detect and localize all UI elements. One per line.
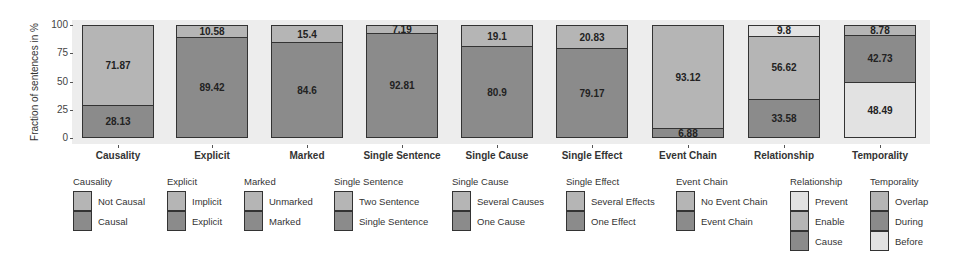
stacked-bar-single-effect: 20.8379.17 bbox=[556, 25, 628, 138]
bar-segment-unmarked: 15.4 bbox=[272, 26, 342, 43]
legend-item-label: One Cause bbox=[477, 216, 525, 227]
bar-segment-marked: 84.6 bbox=[272, 43, 342, 137]
legend-item-label: Several Causes bbox=[477, 196, 544, 207]
legend-swatch-icon bbox=[244, 191, 263, 211]
legend-swatch-icon bbox=[790, 231, 809, 251]
stacked-bar-relationship: 9.856.6233.58 bbox=[748, 25, 820, 138]
legend-swatch-icon bbox=[167, 211, 186, 231]
segment-value-label: 28.13 bbox=[105, 116, 130, 127]
legend-title: Marked bbox=[244, 176, 313, 187]
legend-swatch-icon bbox=[870, 191, 889, 211]
legend-title: Relationship bbox=[790, 176, 848, 187]
legend-item-label: No Event Chain bbox=[701, 196, 768, 207]
y-tick-mark bbox=[70, 138, 73, 139]
bar-segment-single-sentence: 92.81 bbox=[367, 34, 437, 137]
legend-item: Several Causes bbox=[452, 191, 544, 211]
segment-value-label: 20.83 bbox=[579, 32, 604, 43]
legend-item: Event Chain bbox=[676, 211, 768, 231]
bar-segment-before: 48.49 bbox=[845, 83, 915, 137]
legend-item: No Event Chain bbox=[676, 191, 768, 211]
legend-swatch-icon bbox=[870, 211, 889, 231]
segment-value-label: 56.62 bbox=[771, 62, 796, 73]
bar-segment-two-sentence: 7.19 bbox=[367, 26, 437, 34]
bar-segment-during: 42.73 bbox=[845, 36, 915, 83]
legend-temporality: TemporalityOverlapDuringBefore bbox=[870, 176, 928, 251]
x-tick-mark bbox=[688, 145, 689, 148]
stacked-bar-chart: Fraction of sentences in % 0255075100 71… bbox=[0, 0, 966, 266]
bar-segment-one-cause: 80.9 bbox=[462, 47, 532, 137]
legend-marked: MarkedUnmarkedMarked bbox=[244, 176, 313, 231]
legend-swatch-icon bbox=[790, 211, 809, 231]
legend-item-label: Implicit bbox=[192, 196, 222, 207]
stacked-bar-single-sentence: 7.1992.81 bbox=[366, 25, 438, 138]
bar-segment-overlap: 8.78 bbox=[845, 26, 915, 36]
segment-value-label: 33.58 bbox=[771, 113, 796, 124]
legend-swatch-icon bbox=[73, 211, 92, 231]
legend-item: One Effect bbox=[566, 211, 655, 231]
stacked-bar-marked: 15.484.6 bbox=[271, 25, 343, 138]
y-tick-mark bbox=[70, 110, 73, 111]
bar-segment-several-effects: 20.83 bbox=[557, 26, 627, 49]
x-category-label: Single Sentence bbox=[347, 150, 457, 161]
bar-segment-cause: 33.58 bbox=[749, 100, 819, 137]
legend-single-sentence: Single SentenceTwo SentenceSingle Senten… bbox=[334, 176, 428, 231]
legend-explicit: ExplicitImplicitExplicit bbox=[167, 176, 222, 231]
bar-segment-enable: 56.62 bbox=[749, 37, 819, 100]
x-category-label: Relationship bbox=[729, 150, 839, 161]
bar-segment-implicit: 10.58 bbox=[177, 26, 247, 38]
legend-single-effect: Single EffectSeveral EffectsOne Effect bbox=[566, 176, 655, 231]
legend-item-label: Explicit bbox=[192, 216, 222, 227]
segment-value-label: 6.88 bbox=[678, 128, 697, 139]
x-tick-mark bbox=[880, 145, 881, 148]
legend-item-label: Enable bbox=[815, 216, 845, 227]
bar-segment-prevent: 9.8 bbox=[749, 26, 819, 37]
legend-swatch-icon bbox=[334, 211, 353, 231]
y-tick-label: 25 bbox=[44, 104, 68, 115]
legend-item-label: Before bbox=[895, 236, 923, 247]
legend-swatch-icon bbox=[167, 191, 186, 211]
legend-item-label: Marked bbox=[269, 216, 301, 227]
x-tick-mark bbox=[402, 145, 403, 148]
stacked-bar-single-cause: 19.180.9 bbox=[461, 25, 533, 138]
legend-event-chain: Event ChainNo Event ChainEvent Chain bbox=[676, 176, 768, 231]
legend-swatch-icon bbox=[566, 211, 585, 231]
stacked-bar-causality: 71.8728.13 bbox=[82, 25, 154, 138]
legend-item: Explicit bbox=[167, 211, 222, 231]
legend-single-cause: Single CauseSeveral CausesOne Cause bbox=[452, 176, 544, 231]
stacked-bar-temporality: 8.7842.7348.49 bbox=[844, 25, 916, 138]
x-category-label: Single Effect bbox=[537, 150, 647, 161]
y-tick-mark bbox=[70, 53, 73, 54]
bar-segment-causal: 28.13 bbox=[83, 106, 153, 137]
segment-value-label: 8.78 bbox=[870, 25, 889, 36]
legend-swatch-icon bbox=[452, 191, 471, 211]
legend-swatch-icon bbox=[870, 231, 889, 251]
legend-item-label: During bbox=[895, 216, 923, 227]
segment-value-label: 48.49 bbox=[867, 105, 892, 116]
legend-relationship: RelationshipPreventEnableCause bbox=[790, 176, 848, 251]
legend-title: Single Sentence bbox=[334, 176, 428, 187]
legend-item-label: Overlap bbox=[895, 196, 928, 207]
legend-causality: CausalityNot CausalCausal bbox=[73, 176, 145, 231]
segment-value-label: 89.42 bbox=[199, 82, 224, 93]
legend-item-label: Cause bbox=[815, 236, 842, 247]
legend-item-label: Event Chain bbox=[701, 216, 753, 227]
segment-value-label: 80.9 bbox=[487, 87, 506, 98]
x-tick-mark bbox=[212, 145, 213, 148]
legend-swatch-icon bbox=[73, 191, 92, 211]
legend-item: Cause bbox=[790, 231, 848, 251]
x-category-label: Marked bbox=[252, 150, 362, 161]
legend-item: Several Effects bbox=[566, 191, 655, 211]
legend-swatch-icon bbox=[566, 191, 585, 211]
y-tick-label: 100 bbox=[44, 19, 68, 30]
legend-item: During bbox=[870, 211, 928, 231]
segment-value-label: 19.1 bbox=[487, 31, 506, 42]
segment-value-label: 10.58 bbox=[199, 26, 224, 37]
legend-title: Single Cause bbox=[452, 176, 544, 187]
legend-item: Single Sentence bbox=[334, 211, 428, 231]
legend-swatch-icon bbox=[790, 191, 809, 211]
y-tick-label: 0 bbox=[44, 132, 68, 143]
legend-item-label: Not Causal bbox=[98, 196, 145, 207]
segment-value-label: 71.87 bbox=[105, 60, 130, 71]
legend-item-label: Unmarked bbox=[269, 196, 313, 207]
segment-value-label: 92.81 bbox=[389, 80, 414, 91]
